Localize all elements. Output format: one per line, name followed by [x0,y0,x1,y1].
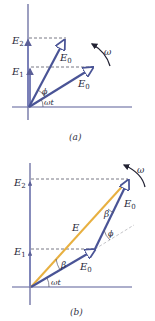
omega-t-arc [47,278,49,287]
e2-label: E2 [13,177,26,190]
panel-a-caption: (a) [69,132,82,142]
e0-lower-label: E0 [79,261,92,274]
omega-t-arc [41,99,43,107]
beta-lower-label: β [60,260,66,270]
beta-lower-arc [56,259,60,270]
e0-upper-label: E0 [123,198,136,211]
e1-label: E1 [11,66,24,79]
omega-t-label: ωt [51,278,62,287]
phi-label: ϕ [108,229,114,238]
e0-upper-label: E0 [59,52,72,65]
phasor-diagram: E2 E1 E0 E0 ϕ ωt ω (a) E2 [0,0,155,321]
e1-label: E1 [13,246,26,259]
phasor-e0-upper [95,181,128,249]
omega-t-label: ωt [44,98,55,107]
phi-label: ϕ [42,87,48,96]
beta-upper-label: β [103,209,109,219]
resultant-e-label: E [71,222,80,233]
e0-lower-label: E0 [77,78,90,91]
panel-b-caption: (b) [70,307,83,317]
panel-b: E2 E1 E E0 E0 β β ϕ ωt ω (b) [12,163,145,317]
omega-label: ω [104,47,112,57]
omega-label: ω [137,165,145,175]
e2-label: E2 [11,35,24,48]
panel-a: E2 E1 E0 E0 ϕ ωt ω (a) [11,4,132,142]
